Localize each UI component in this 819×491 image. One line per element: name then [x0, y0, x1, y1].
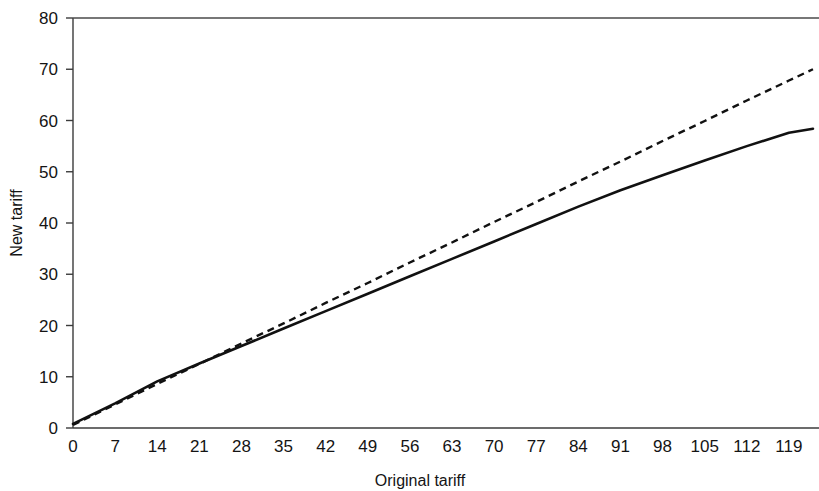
y-axis-tick-label: 10	[39, 368, 58, 387]
y-axis-tick-label: 20	[39, 317, 58, 336]
y-axis-tick-label: 30	[39, 265, 58, 284]
x-axis-title: Original tariff	[375, 472, 466, 489]
x-axis-tick-label: 42	[316, 437, 335, 456]
x-axis-tick-label: 70	[485, 437, 504, 456]
y-axis-tick-labels: 01020304050607080	[39, 9, 58, 438]
y-axis-tick-label: 40	[39, 214, 58, 233]
x-axis-tick-label: 35	[274, 437, 293, 456]
x-axis-tick-label: 105	[691, 437, 719, 456]
y-axis-title: New tariff	[8, 189, 25, 257]
x-axis-tick-label: 49	[358, 437, 377, 456]
x-axis-tick-label: 0	[68, 437, 77, 456]
x-axis-tick-label: 21	[190, 437, 209, 456]
chart-container: 01020304050607080 0714212835424956637077…	[0, 0, 819, 491]
x-axis-tick-label: 84	[569, 437, 588, 456]
y-axis-tick-label: 70	[39, 60, 58, 79]
x-axis-tick-label: 14	[148, 437, 167, 456]
x-axis-tick-label: 98	[653, 437, 672, 456]
line-chart: 01020304050607080 0714212835424956637077…	[0, 0, 819, 491]
x-axis-tick-label: 28	[232, 437, 251, 456]
x-axis-tick-label: 112	[733, 437, 760, 456]
x-axis-tick-label: 63	[443, 437, 462, 456]
x-axis-tick-label: 91	[611, 437, 630, 456]
x-axis-tick-label: 77	[527, 437, 546, 456]
y-axis-tick-label: 60	[39, 112, 58, 131]
y-axis-tick-label: 80	[39, 9, 58, 28]
y-axis-tick-label: 0	[49, 419, 58, 438]
y-axis-tick-label: 50	[39, 163, 58, 182]
x-axis-tick-label: 7	[110, 437, 119, 456]
x-axis-tick-label: 119	[775, 437, 802, 456]
x-axis-tick-label: 56	[400, 437, 419, 456]
chart-background	[0, 0, 819, 491]
